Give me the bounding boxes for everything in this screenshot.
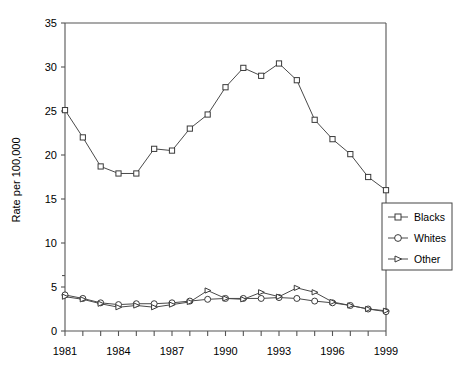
chart-background	[0, 0, 463, 387]
marker-circle	[294, 295, 300, 301]
chart-legend[interactable]: BlacksWhitesOther	[382, 203, 452, 270]
x-tick-label: 1996	[320, 345, 344, 357]
marker-circle	[312, 298, 318, 304]
marker-circle	[205, 296, 211, 302]
marker-square	[330, 137, 335, 142]
marker-square	[294, 78, 299, 83]
marker-square	[241, 65, 246, 70]
chart-root: 05101520253035 1981198419871990199319961…	[0, 0, 463, 387]
marker-square	[169, 148, 174, 153]
marker-square	[205, 112, 210, 117]
y-tick-label: 15	[45, 193, 57, 205]
marker-square	[116, 171, 121, 176]
x-tick-label: 1993	[267, 345, 291, 357]
marker-square	[312, 117, 317, 122]
marker-square	[223, 85, 228, 90]
marker-circle	[395, 235, 402, 242]
y-tick-label: 5	[51, 281, 57, 293]
x-tick-label: 1981	[53, 345, 77, 357]
x-tick-label: 1999	[374, 345, 398, 357]
legend-label: Other	[414, 253, 441, 265]
marker-square	[187, 126, 192, 131]
marker-square	[98, 164, 103, 169]
marker-square	[348, 152, 353, 157]
marker-square	[383, 188, 388, 193]
marker-square	[80, 135, 85, 140]
y-tick-label: 20	[45, 149, 57, 161]
line-chart: 05101520253035 1981198419871990199319961…	[0, 0, 463, 387]
marker-circle	[258, 295, 264, 301]
marker-square	[259, 73, 264, 78]
y-tick-label: 25	[45, 105, 57, 117]
y-axis-title: Rate per 100,000	[10, 137, 22, 222]
legend-label: Blacks	[414, 211, 445, 223]
marker-square	[366, 174, 371, 179]
marker-square	[276, 61, 281, 66]
y-tick-label: 30	[45, 61, 57, 73]
y-tick-label: 0	[51, 325, 57, 337]
x-tick-label: 1984	[106, 345, 130, 357]
marker-square	[134, 171, 139, 176]
marker-square	[395, 214, 401, 220]
x-tick-label: 1987	[160, 345, 184, 357]
legend-label: Whites	[414, 232, 446, 244]
y-tick-label: 10	[45, 237, 57, 249]
x-tick-label: 1990	[213, 345, 237, 357]
y-tick-label: 35	[45, 17, 57, 29]
marker-square	[152, 146, 157, 151]
marker-square	[62, 108, 67, 113]
